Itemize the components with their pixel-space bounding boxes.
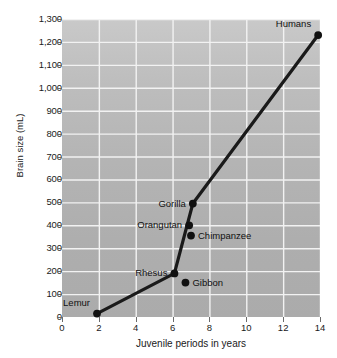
x-axis-tick-mark <box>209 317 210 322</box>
data-point-label-gibbon: Gibbon <box>192 278 223 288</box>
data-point-marker[interactable] <box>171 270 179 278</box>
data-point-label-chimpanzee: Chimpanzee <box>198 231 251 241</box>
y-axis-tick-mark <box>57 42 62 43</box>
y-axis-tick-mark <box>57 248 62 249</box>
y-axis-tick-label: 400 <box>2 220 62 230</box>
y-axis-tick-mark <box>57 88 62 89</box>
y-axis-tick-mark <box>57 134 62 135</box>
y-axis-tick-mark <box>57 157 62 158</box>
y-axis-tick-label: 100 <box>2 289 62 299</box>
data-point-label-orangutan: Orangutan <box>137 220 182 230</box>
x-axis-tick-label: 0 <box>42 322 82 333</box>
data-point-label-gorilla: Gorilla <box>158 199 185 209</box>
x-axis-tick-label: 8 <box>189 322 229 333</box>
y-axis-tick-label: 1,200 <box>2 37 62 47</box>
y-axis-tick-mark <box>57 225 62 226</box>
data-point-label-rhesus: Rhesus <box>135 268 167 278</box>
data-point-marker[interactable] <box>185 221 193 229</box>
y-axis-tick-label: 1,100 <box>2 60 62 70</box>
x-axis-tick-mark <box>320 317 321 322</box>
y-axis-title: Brain size (mL) <box>14 81 25 211</box>
y-axis-tick-label: 300 <box>2 243 62 253</box>
y-axis-tick-label: 1,000 <box>2 83 62 93</box>
brain-size-vs-juvenile-period-chart: 01002003004005006007008009001,0001,1001,… <box>0 0 337 358</box>
data-point-label-lemur: Lemur <box>63 298 90 308</box>
y-axis-tick-label: 700 <box>2 152 62 162</box>
y-axis-tick-label: 1,300 <box>2 14 62 24</box>
y-axis-tick-label: 200 <box>2 266 62 276</box>
y-axis-tick-mark <box>57 202 62 203</box>
y-axis-tick-label: 0 <box>2 312 62 322</box>
y-axis-tick-mark <box>57 271 62 272</box>
y-axis-tick-mark <box>57 65 62 66</box>
x-axis-tick-label: 6 <box>153 322 193 333</box>
y-axis-tick-mark <box>57 19 62 20</box>
y-axis-tick-mark <box>57 294 62 295</box>
x-axis-tick-label: 14 <box>300 322 337 333</box>
y-axis-tick-mark <box>57 179 62 180</box>
x-axis-tick-mark <box>62 317 63 322</box>
x-axis-tick-mark <box>283 317 284 322</box>
y-axis-tick-label: 600 <box>2 174 62 184</box>
y-axis-tick-label: 800 <box>2 129 62 139</box>
series-line <box>97 35 318 314</box>
y-axis-tick-label: 500 <box>2 197 62 207</box>
x-axis-tick-label: 4 <box>116 322 156 333</box>
x-axis-tick-label: 12 <box>263 322 303 333</box>
data-point-marker[interactable] <box>189 200 197 208</box>
x-axis-tick-mark <box>136 317 137 322</box>
data-point-marker[interactable] <box>182 279 190 287</box>
x-axis-tick-mark <box>246 317 247 322</box>
x-axis-title: Juvenile periods in years <box>62 338 320 349</box>
y-axis-tick-mark <box>57 111 62 112</box>
plot-area <box>62 19 320 317</box>
x-axis-tick-label: 2 <box>79 322 119 333</box>
data-point-marker[interactable] <box>187 232 195 240</box>
data-series-layer <box>62 19 320 317</box>
data-point-marker[interactable] <box>314 31 322 39</box>
x-axis-tick-label: 10 <box>226 322 266 333</box>
data-point-label-humans: Humans <box>276 19 311 29</box>
x-axis-tick-mark <box>173 317 174 322</box>
y-axis-tick-label: 900 <box>2 106 62 116</box>
x-axis-tick-mark <box>99 317 100 322</box>
